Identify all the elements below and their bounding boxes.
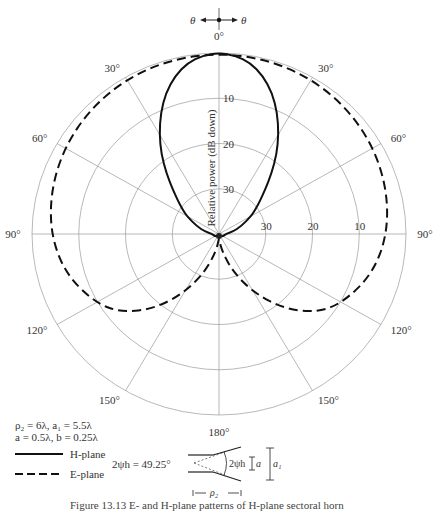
theta-left-label: θ	[190, 14, 196, 26]
right-axis-tick-label: 10	[354, 220, 366, 232]
angle-label: 30°	[318, 62, 333, 74]
angle-label: 60°	[32, 132, 47, 144]
grid-spoke	[57, 144, 219, 235]
angle-label: 30°	[104, 62, 119, 74]
right-axis-tick-label: 20	[308, 220, 320, 232]
radial-tick-label: 10	[223, 92, 235, 104]
angle-label: 90°	[417, 228, 432, 240]
right-axis-tick-label: 30	[261, 220, 273, 232]
theta-right-label: θ	[241, 14, 247, 26]
radial-tick-label: 30	[223, 183, 235, 195]
legend: H-plane E-plane	[15, 448, 106, 480]
horn-rho2-label: ρ₂	[209, 487, 219, 498]
angle-label: 90°	[5, 228, 20, 240]
angle-label: 120°	[391, 324, 412, 336]
params-line2: a = 0.5λ, b = 0.25λ	[15, 431, 99, 443]
grid-spoke	[219, 234, 381, 325]
legend-h-plane-label: H-plane	[70, 448, 106, 460]
half-angle-value: 2ψh = 49.25°	[112, 458, 171, 470]
angle-label: 120°	[26, 324, 47, 336]
angle-label: 150°	[99, 394, 120, 406]
angle-label: 150°	[318, 394, 339, 406]
grid-spoke	[126, 234, 220, 391]
angle-label: 60°	[391, 132, 406, 144]
params-line1: ρ₂ = 6λ, a₁ = 5.5λ	[15, 419, 93, 431]
angle-label: 180°	[209, 426, 230, 438]
radial-tick-label: 20	[223, 138, 235, 150]
figure-caption: Figure 13.13 E- and H-plane patterns of …	[70, 499, 344, 511]
radial-axis-label: Relative power (dB down)	[205, 109, 218, 226]
horn-a-label: a	[256, 458, 261, 469]
theta-indicator: θ θ	[190, 8, 247, 30]
center-lobe	[216, 233, 222, 239]
horn-a1-label: a₁	[273, 458, 281, 469]
angle-label: 0°	[214, 30, 224, 42]
grid-spoke	[219, 234, 313, 391]
legend-e-plane-label: E-plane	[70, 468, 104, 480]
horn-angle-label: 2ψh	[229, 458, 245, 469]
horn-diagram	[188, 447, 274, 496]
